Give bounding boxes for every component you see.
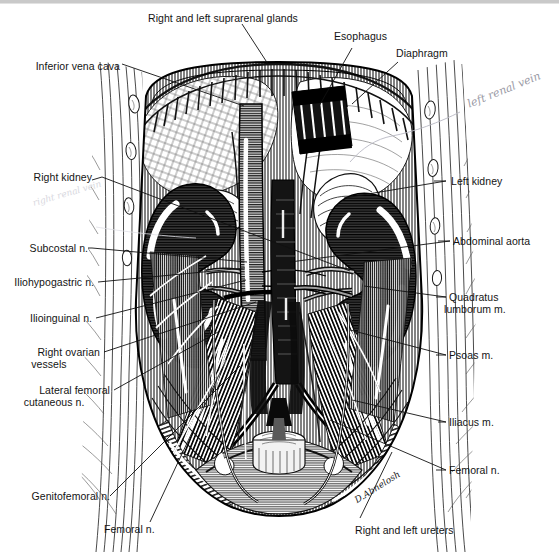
label-lateral-femoral-cutaneous-line1: Lateral femoral [0,384,110,397]
label-lateral-femoral-cutaneous-line2: cutaneous n. [0,396,108,409]
label-right-ovarian-vessels-line1: Right ovarian [0,346,100,359]
label-right-ovarian-vessels-line2: vessels [0,358,98,371]
label-abdominal-aorta: Abdominal aorta [453,235,530,248]
label-femoral-nerve-bottom: Femoral n. [104,523,155,536]
label-ilioinguinal-nerve: Ilioinguinal n. [0,312,92,325]
label-esophagus: Esophagus [334,30,387,43]
label-femoral-nerve-right: Femoral n. [449,464,500,477]
label-genitofemoral-nerve: Genitofemoral n. [0,490,110,503]
esophagus-structure [292,86,352,154]
anatomy-figure: left renal vein right renal vein D.Abnel… [0,0,559,552]
left-abdominal-wall [34,60,147,552]
label-left-kidney: Left kidney [451,175,502,188]
label-suprarenal-glands: Right and left suprarenal glands [148,12,298,25]
label-diaphragm: Diaphragm [396,47,448,60]
label-quadratus-lumborum-line1: Quadratus [449,291,498,304]
label-right-kidney: Right kidney [0,171,92,184]
label-inferior-vena-cava: Inferior vena cava [0,60,120,73]
label-right-and-left-ureters: Right and left ureters [355,524,454,537]
label-iliacus-muscle: Iliacus m. [449,416,494,429]
label-iliohypogastric-nerve: Iliohypogastric n. [0,276,94,289]
label-subcostal-nerve: Subcostal n. [0,242,88,255]
label-quadratus-lumborum-line2: lumborum m. [444,303,506,316]
retroperitoneal-contents [130,55,430,548]
label-psoas-muscle: Psoas m. [449,349,493,362]
